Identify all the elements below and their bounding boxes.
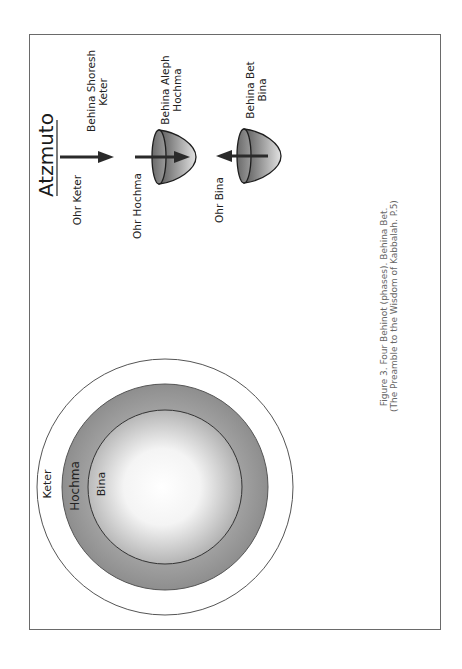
phase-name: Behina Bet	[244, 60, 256, 120]
hochma-circle-label: Hochma	[69, 458, 83, 514]
figure-caption: Figure 3. Four Behinot (phases). Behina …	[379, 202, 400, 412]
caption-line-1: Figure 3. Four Behinot (phases). Behina …	[379, 202, 389, 412]
keter-circle-label: Keter	[42, 464, 55, 504]
behina-aleph-label: Behina Aleph Hochma	[159, 53, 183, 127]
ohr-keter-label: Ohr Keter	[71, 170, 83, 230]
behina-bet-label: Behina Bet Bina	[244, 60, 268, 120]
behina-shoresh-label: Behina Shoresh Keter	[85, 52, 109, 132]
caption-line-2: (The Preamble to the Wisdom of Kabbalah.…	[389, 202, 399, 412]
atzmuto-title: Atzmuto	[35, 119, 58, 197]
bina-circle	[88, 410, 242, 564]
ohr-keter-arrow-icon	[60, 151, 114, 163]
ohr-hochma-label: Ohr Hochma	[131, 169, 143, 243]
sefira-name: Hochma	[171, 53, 183, 127]
ohr-bina-label: Ohr Bina	[213, 172, 225, 228]
phase-name: Behina Shoresh	[85, 52, 97, 132]
sefira-name: Keter	[97, 52, 109, 132]
sefira-name: Bina	[256, 60, 268, 120]
phase-name: Behina Aleph	[159, 53, 171, 127]
bina-circle-label: Bina	[96, 468, 109, 500]
